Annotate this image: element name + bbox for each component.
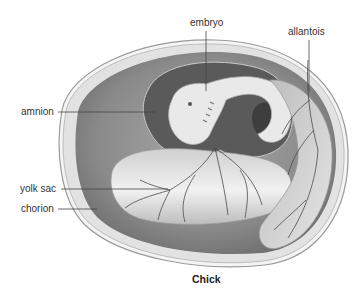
chick-egg-diagram: embryo allantois amnion yolk sac chorion… xyxy=(0,0,363,292)
yolk-sac xyxy=(111,148,291,224)
label-yolk-sac: yolk sac xyxy=(20,184,56,194)
label-allantois: allantois xyxy=(288,27,325,37)
label-amnion: amnion xyxy=(21,107,54,117)
label-embryo: embryo xyxy=(190,18,223,28)
label-chorion: chorion xyxy=(21,204,54,214)
egg-illustration xyxy=(0,0,363,292)
diagram-caption: Chick xyxy=(192,274,221,285)
